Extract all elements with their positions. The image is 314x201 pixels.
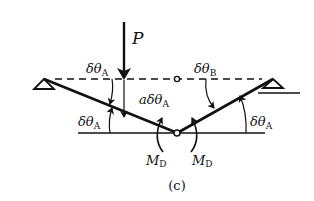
left-bottom-angle-label: δθA (78, 114, 101, 131)
moment-left-arrow-icon (157, 118, 163, 152)
right-top-angle-label: δθB (194, 61, 217, 78)
figure-caption: (c) (168, 178, 185, 193)
moment-left-label: MD (145, 153, 167, 169)
moment-right-label: MD (191, 153, 213, 169)
hinge-d-circle (174, 130, 180, 136)
left-bottom-angle-arrow-icon (109, 108, 112, 133)
right-roller-support-icon (258, 79, 300, 93)
diagram-svg: P δθA δθB aδθA δθA δθA MD MD (c) (0, 0, 314, 201)
right-bottom-angle-label: δθA (250, 114, 273, 131)
left-top-angle-arrow-icon (110, 79, 113, 104)
right-bottom-angle-arrow-icon (240, 96, 246, 133)
left-top-angle-label: δθA (86, 61, 109, 78)
original-hinge-circle (174, 76, 179, 81)
beam-mechanism-diagram: P δθA δθB aδθA δθA δθA MD MD (c) (0, 0, 314, 201)
load-p-label: P (131, 28, 144, 48)
center-rotation-label: aδθA (139, 92, 169, 109)
right-top-angle-arrow-icon (206, 79, 214, 108)
